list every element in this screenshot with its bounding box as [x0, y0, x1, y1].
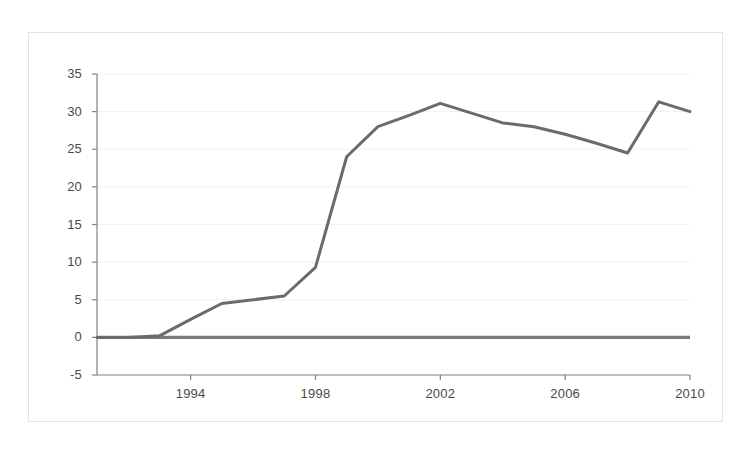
y-tick-label: 10 [52, 254, 82, 269]
x-tick-label: 2006 [535, 386, 595, 401]
x-tick-label: 2002 [410, 386, 470, 401]
y-tick-label: 25 [52, 141, 82, 156]
x-axis-ticks [191, 375, 690, 380]
chart-figure: 35302520151050-5 19941998200220062010 [0, 0, 755, 449]
line-chart-plot [0, 0, 755, 449]
y-tick-label: 35 [52, 66, 82, 81]
x-tick-label: 1994 [161, 386, 221, 401]
y-tick-label: -5 [52, 367, 82, 382]
y-tick-label: 15 [52, 217, 82, 232]
x-tick-label: 1998 [285, 386, 345, 401]
y-tick-label: 0 [52, 329, 82, 344]
gridlines [97, 74, 690, 337]
x-tick-label: 2010 [660, 386, 720, 401]
y-tick-label: 20 [52, 179, 82, 194]
data-series-line [97, 102, 690, 338]
y-axis-ticks [92, 74, 97, 375]
y-tick-label: 30 [52, 104, 82, 119]
y-tick-label: 5 [52, 292, 82, 307]
